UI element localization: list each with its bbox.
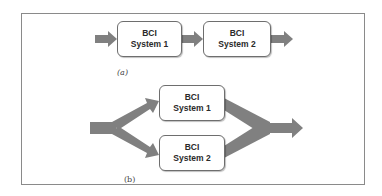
box-subtitle: System 2 <box>218 39 255 50</box>
panel-b-merge-arrow <box>224 98 303 158</box>
panel-a-bci-system-2-box: BCI System 2 <box>203 21 271 57</box>
box-title: BCI <box>185 92 200 103</box>
box-title: BCI <box>230 28 245 39</box>
panel-b-bci-system-1-box: BCI System 1 <box>159 85 225 121</box>
box-subtitle: System 1 <box>173 103 210 114</box>
panel-a-output-arrow <box>271 31 293 47</box>
panel-a-bci-system-1-box: BCI System 1 <box>117 21 182 57</box>
box-title: BCI <box>142 28 157 39</box>
panel-a-connector-arrow <box>182 31 203 47</box>
panel-b-label: (b) <box>124 175 135 184</box>
box-subtitle: System 1 <box>131 39 168 50</box>
panel-a-input-arrow <box>95 31 117 47</box>
panel-a-label: (a) <box>117 68 128 77</box>
box-subtitle: System 2 <box>173 153 210 164</box>
panel-b-bci-system-2-box: BCI System 2 <box>159 135 225 171</box>
panel-b-split-arrow <box>90 98 159 158</box>
box-title: BCI <box>185 142 200 153</box>
